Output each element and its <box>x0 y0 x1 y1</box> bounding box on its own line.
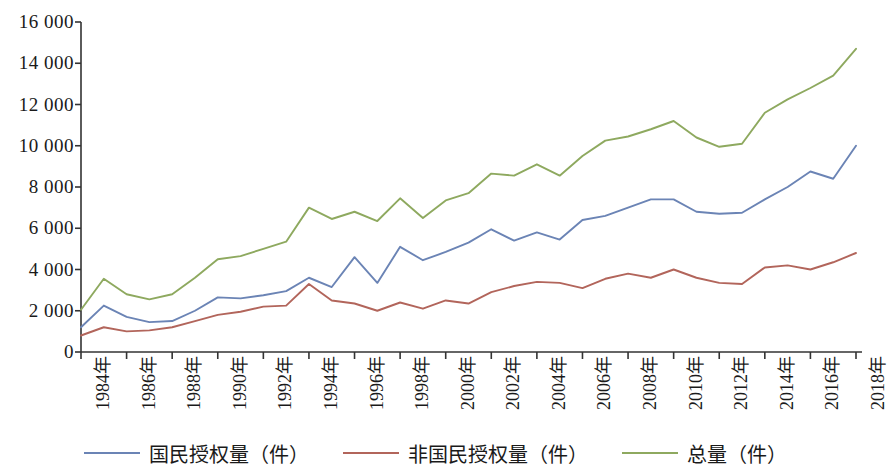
x-tick-label: 2010年 <box>681 356 707 410</box>
x-tick-label: 1994年 <box>316 356 342 410</box>
x-tick-label: 2008年 <box>635 356 661 410</box>
x-tick-label: 1998年 <box>407 356 433 410</box>
x-tick-label: 2006年 <box>589 356 615 410</box>
legend-item[interactable]: 非国民授权量（件） <box>343 439 588 468</box>
x-tick-label: 2012年 <box>726 356 752 410</box>
x-tick-label: 2002年 <box>498 356 524 410</box>
series-line-2 <box>81 253 856 336</box>
line-chart-svg <box>0 0 870 400</box>
series-line-1 <box>81 146 856 328</box>
legend-color-swatch <box>343 452 399 454</box>
legend-color-swatch <box>622 452 678 454</box>
x-tick-label: 2000年 <box>453 356 479 410</box>
x-tick-label: 1990年 <box>225 356 251 410</box>
plot-area <box>0 0 870 400</box>
x-tick-label: 1984年 <box>88 356 114 410</box>
x-tick-label: 2016年 <box>817 356 843 410</box>
legend-item[interactable]: 总量（件） <box>622 439 787 468</box>
series-line-3 <box>81 49 856 310</box>
chart-legend: 国民授权量（件）非国民授权量（件）总量（件） <box>0 436 870 470</box>
x-tick-label: 2004年 <box>544 356 570 410</box>
legend-label: 国民授权量（件） <box>149 439 309 468</box>
legend-item[interactable]: 国民授权量（件） <box>84 439 309 468</box>
x-tick-label: 1996年 <box>362 356 388 410</box>
x-tick-label: 1986年 <box>134 356 160 410</box>
legend-label: 总量（件） <box>687 439 787 468</box>
x-tick-label: 1992年 <box>270 356 296 410</box>
x-tick-label: 2014年 <box>772 356 798 410</box>
legend-label: 非国民授权量（件） <box>408 439 588 468</box>
x-tick-label: 2018年 <box>863 356 889 410</box>
x-tick-label: 1988年 <box>179 356 205 410</box>
legend-color-swatch <box>84 452 140 454</box>
